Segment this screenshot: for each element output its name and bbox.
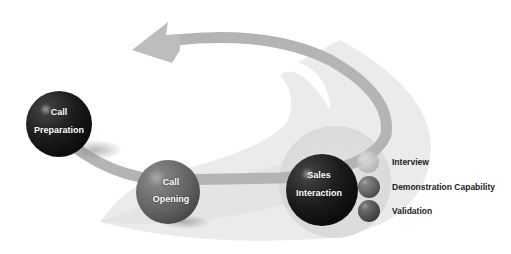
- stage-label-line1: Sales: [296, 171, 342, 180]
- arrowhead-icon: [132, 22, 180, 63]
- sales-cycle-diagram: Call Preparation Call Opening Sales Inte…: [0, 0, 511, 254]
- stage-label-line1: Call: [34, 108, 84, 117]
- legend-sphere-demonstration: [358, 176, 380, 198]
- legend-sphere-validation: [358, 200, 380, 222]
- stage-label-call-preparation: Call Preparation: [34, 108, 84, 135]
- legend-label-interview: Interview: [392, 158, 429, 167]
- legend-label-validation: Validation: [392, 207, 432, 216]
- stage-label-line2: Interaction: [296, 189, 342, 198]
- legend-sphere-interview: [357, 151, 379, 173]
- stage-label-line2: Preparation: [34, 126, 84, 135]
- stage-label-call-opening: Call Opening: [153, 178, 190, 204]
- legend-label-demonstration-capability: Demonstration Capability: [392, 183, 495, 192]
- stage-label-sales-interaction: Sales Interaction: [296, 171, 342, 198]
- stage-label-line2: Opening: [153, 195, 190, 204]
- stage-label-line1: Call: [153, 178, 190, 187]
